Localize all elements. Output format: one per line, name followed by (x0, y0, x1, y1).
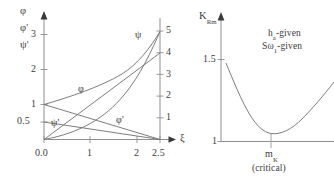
left-plot-x-axis-title: ξ (180, 133, 185, 144)
left-plot-xtick-label-1: 1 (87, 148, 92, 158)
right-plot-xtick-note-critical: (critical) (252, 164, 286, 174)
left-plot-xtick-label-2: 2 (134, 148, 139, 158)
left-plot-y2tick-label-2: 2 (166, 90, 171, 100)
right-plot-annotation-ha-tail: -given (276, 28, 301, 38)
right-plot-xtick-label-mk-main: m (265, 148, 273, 159)
left-plot-axis-label-phi-prime: φ' (20, 23, 28, 34)
right-plot-xtick-label-mk-sub: K (273, 156, 278, 163)
right-plot-ytick-label-1: 1 (212, 136, 217, 146)
left-plot-ytick-label-3: 3 (31, 29, 36, 39)
right-plot-y-axis-title: KRm (199, 11, 217, 24)
right-plot-curve-krm (226, 63, 334, 134)
left-plot-ytick-label-2: 2 (31, 64, 36, 74)
right-plot-y-axis-title-main: K (199, 10, 207, 21)
left-plot-curve-label-psi-prime: ψ' (51, 118, 59, 128)
left-plot-xtick-label-2-5: 2.5 (152, 148, 165, 158)
left-plot-axis-label-psi-prime-mark: ' (27, 39, 29, 50)
right-plot-annotation-somega-sub: 1 (274, 47, 278, 54)
left-plot-axis-label-phi-prime-mark: ' (26, 22, 28, 33)
left-plot-curve-label-phi: φ (78, 84, 84, 94)
right-plot-annotation-somega-main: Sω (262, 41, 274, 51)
left-plot-curve-label-psi-prime-mark: ' (57, 117, 59, 128)
left-plot-y2tick-label-5: 5 (166, 25, 171, 35)
right-plot-annotation-ha: ha-given (268, 29, 301, 41)
left-plot-curve-psi (44, 32, 160, 140)
right-plot-annotation-somega: Sω1-given (262, 42, 302, 54)
left-plot-y2tick-label-1: 1 (166, 112, 171, 122)
left-plot-ytick-label-1: 1 (31, 99, 36, 109)
right-plot-ytick-label-1-5: 1.5 (203, 54, 216, 64)
figure-container: φ φ' ψ' 3 2 1 0.5 5 4 3 2 1 0.0 1 2 2.5 … (0, 0, 334, 182)
left-plot-x-axis-arrow (169, 136, 177, 142)
left-plot-y2tick-label-3: 3 (166, 69, 171, 79)
left-plot-ytick-label-0-5: 0.5 (17, 116, 30, 126)
right-plot-annotation-somega-tail: -given (277, 41, 302, 51)
left-plot-curve-label-phi-prime: φ' (116, 115, 124, 125)
left-plot-axis-label-psi-prime-base: ψ (20, 39, 27, 50)
left-plot-y2tick-label-4: 4 (166, 47, 171, 57)
left-plot-curve-psi-prime (44, 122, 160, 140)
right-plot-y-axis-arrow (218, 12, 225, 21)
left-plot-y-axis-arrow (41, 11, 48, 20)
left-plot-curve-label-psi: ψ (135, 30, 141, 40)
right-plot-xtick-label-mk: mK (265, 149, 278, 162)
left-plot-axis-label-psi-prime: ψ' (20, 40, 29, 51)
right-plot-y-axis-title-sub: Rm (207, 18, 217, 25)
left-plot-curve-phi-prime (44, 105, 160, 140)
left-plot-curve-label-phi-prime-mark: ' (122, 114, 124, 125)
left-plot-group (41, 11, 177, 143)
left-plot-axis-label-phi: φ (20, 6, 26, 17)
left-plot-xtick-label-0: 0.0 (35, 148, 48, 158)
left-plot-curve-psi-secondary (44, 53, 160, 140)
